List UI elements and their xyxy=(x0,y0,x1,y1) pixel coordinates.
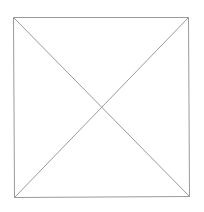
crossed-square-diagram xyxy=(0,0,204,212)
diagram-canvas xyxy=(0,0,204,212)
